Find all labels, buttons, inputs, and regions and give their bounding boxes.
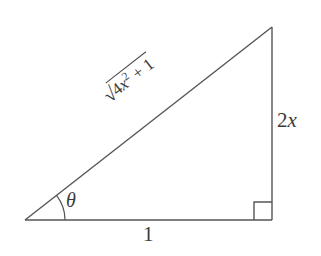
triangle-figure: 1 2x θ √4x2 + 1 [0, 0, 321, 256]
angle-theta-label: θ [66, 190, 76, 210]
triangle-svg [0, 0, 321, 256]
opposite-variable: x [288, 108, 297, 132]
opposite-length-label: 2x [277, 110, 297, 131]
opposite-coefficient: 2 [277, 108, 288, 132]
angle-arc [57, 195, 66, 220]
right-angle-marker-icon [254, 202, 272, 220]
base-length-label: 1 [143, 224, 154, 245]
